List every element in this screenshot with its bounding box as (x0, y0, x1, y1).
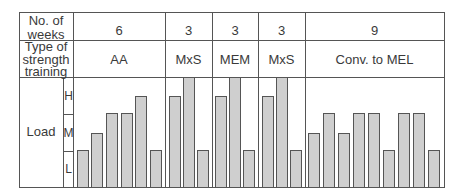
load-bar (353, 113, 365, 187)
type-mxs1: MxS (165, 53, 212, 67)
load-bar (169, 96, 181, 187)
load-bar (276, 77, 288, 187)
load-bar (398, 113, 410, 187)
load-divider-h-m (63, 114, 73, 115)
load-bar (183, 77, 195, 187)
load-bar (106, 113, 118, 187)
table-right-border (444, 12, 445, 188)
row-header-type: Type of strength training (19, 38, 73, 79)
weeks-mem: 3 (212, 24, 258, 38)
table-bottom-border (19, 187, 445, 188)
column-divider-mxs1 (212, 12, 213, 188)
load-bar (243, 150, 255, 187)
type-aa: AA (73, 53, 165, 67)
load-bar (428, 150, 440, 187)
load-bar (91, 133, 103, 187)
row-divider-weeks (19, 40, 445, 41)
load-bar (150, 150, 162, 187)
load-level-l: L (63, 162, 74, 176)
row-header-load: Load (19, 125, 63, 139)
column-divider-mem (258, 12, 259, 188)
load-bar (215, 96, 227, 187)
weeks-aa: 6 (73, 24, 165, 38)
load-bar (135, 96, 147, 187)
load-bar (262, 96, 274, 187)
load-bar (413, 113, 425, 187)
type-conv: Conv. to MEL (305, 53, 444, 67)
load-bar (121, 113, 133, 187)
type-mem: MEM (212, 53, 258, 67)
load-bar (197, 150, 209, 187)
column-divider-mxs2 (305, 12, 306, 188)
load-bar (338, 133, 350, 187)
weeks-mxs2: 3 (258, 24, 305, 38)
column-divider-aa (165, 12, 166, 188)
load-bar (383, 150, 395, 187)
load-bar (308, 133, 320, 187)
load-level-m: M (63, 126, 74, 140)
load-bar (368, 113, 380, 187)
table-top-border (19, 12, 445, 13)
load-divider-m-l (63, 151, 73, 152)
weeks-conv: 9 (305, 24, 444, 38)
load-bar (77, 150, 89, 187)
load-bar (323, 113, 335, 187)
load-level-h: H (63, 89, 74, 103)
load-bar (229, 77, 241, 187)
load-bar (290, 150, 302, 187)
weeks-mxs1: 3 (165, 24, 212, 38)
type-mxs2: MxS (258, 53, 305, 67)
